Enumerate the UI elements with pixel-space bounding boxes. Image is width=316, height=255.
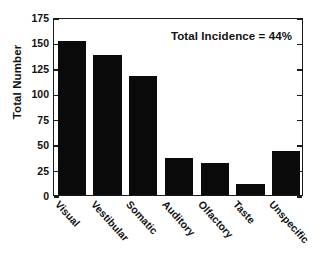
bar (236, 184, 264, 195)
y-axis-tick-label: 75 (37, 114, 49, 126)
bar-series (54, 19, 302, 195)
y-axis-tick-label: 50 (37, 139, 49, 151)
y-axis-tick-label: 100 (31, 88, 49, 100)
bar (201, 163, 229, 195)
y-axis-tick-label: 0 (43, 190, 49, 202)
x-axis-tick-labels: VisualVestibularSomaticAuditoryOlfactory… (53, 198, 303, 255)
bar (129, 76, 157, 195)
x-axis-tick-label: Unspecific (267, 198, 311, 245)
y-axis-tick-label: 150 (31, 37, 49, 49)
bar (272, 151, 300, 195)
bar-chart-figure: Total Number 0255075100125150175 Total I… (0, 0, 316, 255)
y-axis-tick-labels: 0255075100125150175 (0, 18, 49, 196)
x-axis-tick-label: Olfactory (196, 198, 236, 240)
y-axis-tick-label: 125 (31, 63, 49, 75)
total-incidence-annotation: Total Incidence = 44% (171, 30, 292, 42)
y-axis-tick-label: 25 (37, 165, 49, 177)
plot-area: Total Incidence = 44% (53, 18, 303, 196)
bar (93, 55, 121, 195)
x-axis-tick-label: Taste (232, 198, 259, 226)
x-axis-tick-label: Auditory (160, 198, 198, 238)
x-axis-tick-label: Visual (53, 198, 82, 229)
y-axis-tick-label: 175 (31, 12, 49, 24)
bar (165, 158, 193, 195)
bar (58, 41, 86, 195)
x-axis-tick-label: Somatic (124, 198, 160, 236)
